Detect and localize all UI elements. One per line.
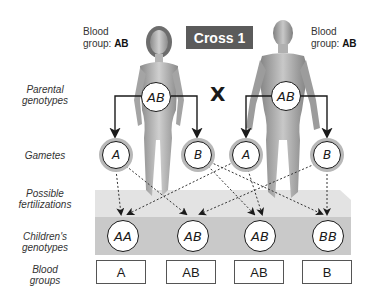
gamete-female-b: B [184,141,212,169]
allele-text: B [194,148,202,162]
genotype-text: BB [319,229,337,244]
gamete-male-b: B [313,141,341,169]
female-genotype-circle: AB [141,82,171,112]
gamete-female-a: A [102,141,130,169]
allele-text: A [112,148,120,162]
blood-group-text: A [117,265,126,280]
child-genotype-circle-1: AA [107,220,139,252]
genotype-text: AB [277,89,295,104]
child-genotype-circle-3: AB [244,220,276,252]
blood-group-text: AB [250,265,267,280]
child-genotype-circle-4: BB [312,220,344,252]
genotype-text: AA [114,229,132,244]
cross-symbol: X [210,82,225,106]
allele-text: B [323,148,331,162]
fertilization-arrows [116,162,327,214]
child-blood-group-box-3: AB [234,260,284,284]
child-blood-group-box-4: B [302,260,352,284]
blood-group-text: AB [182,265,199,280]
child-blood-group-box-1: A [96,260,146,284]
genotype-text: AB [147,90,165,105]
genotype-text: AB [251,229,269,244]
gamete-male-a: A [232,141,260,169]
allele-text: A [242,148,250,162]
genotype-text: AB [184,229,202,244]
child-blood-group-box-2: AB [166,260,216,284]
blood-group-text: B [323,265,332,280]
child-genotype-circle-2: AB [177,220,209,252]
male-genotype-circle: AB [271,81,301,111]
